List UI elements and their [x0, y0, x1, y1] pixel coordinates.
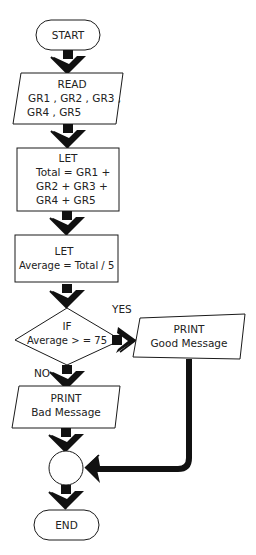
- arrow-down-icon: [49, 485, 84, 509]
- let-average-formula: Average = Total / 5: [19, 259, 114, 272]
- read-vars-line2: GR4 , GR5: [27, 106, 81, 119]
- let-total-line2: GR2 + GR3 +: [36, 180, 108, 193]
- yes-label: YES: [112, 303, 132, 315]
- print-bad-message: Bad Message: [16, 406, 116, 419]
- arrow-down-icon: [51, 124, 86, 148]
- read-title: READ: [52, 78, 92, 91]
- arrow-down-icon: [50, 211, 85, 235]
- connector-circle: [49, 451, 83, 485]
- flowchart-canvas: [0, 0, 256, 555]
- arrow-down-icon: [49, 428, 84, 452]
- let-total-line3: GR4 + GR5: [36, 194, 96, 207]
- arrow-down-icon: [51, 50, 86, 74]
- arrow-left-icon: [85, 455, 100, 483]
- let-total-title: LET: [48, 152, 88, 165]
- end-label: END: [34, 519, 99, 532]
- let-average-title: LET: [44, 245, 84, 258]
- arrow-down-icon: [50, 365, 85, 389]
- decision-condition: Average > = 75: [24, 334, 110, 347]
- no-label: NO: [34, 367, 50, 379]
- start-label: START: [36, 29, 100, 42]
- arrow-down-icon: [50, 284, 85, 308]
- print-good-title: PRINT: [139, 323, 239, 336]
- read-vars-line1: GR1 , GR2 , GR3 ,: [28, 92, 121, 105]
- print-good-message: Good Message: [139, 337, 239, 350]
- let-total-line1: Total = GR1 +: [36, 166, 110, 179]
- print-bad-title: PRINT: [16, 392, 116, 405]
- arrow-right-icon: [112, 327, 136, 353]
- decision-title: IF: [47, 320, 87, 333]
